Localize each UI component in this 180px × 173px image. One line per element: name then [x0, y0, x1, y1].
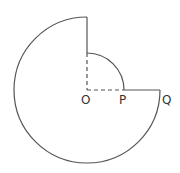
inner-arc [87, 53, 124, 90]
label-P: P [119, 94, 126, 106]
label-Q: Q [162, 94, 171, 106]
sector-figure [0, 0, 180, 173]
diagram-canvas: O P Q [0, 0, 180, 173]
label-O: O [81, 94, 90, 106]
